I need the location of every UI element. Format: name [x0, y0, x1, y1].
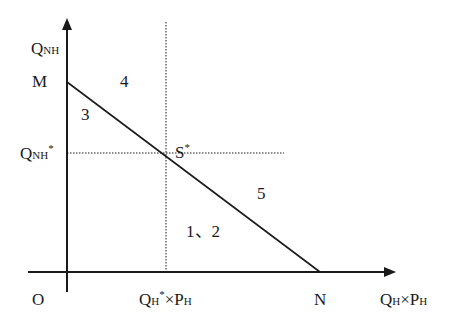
- x-tick-main1: Q: [139, 290, 151, 309]
- x-tick-main2: P: [174, 290, 183, 309]
- x-axis-label-main2: P: [410, 290, 419, 309]
- region-4-label: 4: [120, 73, 129, 90]
- region-1-2-label: 1、2: [186, 223, 220, 240]
- origin-label: O: [32, 291, 44, 308]
- line-mn: [67, 82, 320, 272]
- x-axis-label-sub2: H: [419, 295, 427, 307]
- y-axis-label-main: Q: [31, 39, 43, 58]
- region-3-label: 3: [81, 106, 90, 123]
- y-axis-arrow-icon: [62, 18, 72, 30]
- x-axis-label: QH×PH: [380, 291, 427, 308]
- y-tick-sup: *: [48, 142, 54, 154]
- point-n-label: N: [314, 291, 326, 308]
- region-5-label: 5: [257, 185, 266, 202]
- x-axis-times: ×: [400, 290, 410, 309]
- point-s-star-label: S*: [175, 144, 190, 161]
- y-axis-label: QNH: [31, 40, 59, 57]
- x-tick-times: ×: [165, 290, 175, 309]
- y-axis-label-sub: NH: [43, 44, 59, 56]
- y-tick-main: Q: [20, 144, 32, 163]
- y-tick-label: QNH*: [20, 145, 54, 162]
- x-axis-arrow-icon: [384, 267, 396, 277]
- diagram-canvas: [0, 0, 463, 326]
- point-s-sup: *: [184, 141, 190, 153]
- y-tick-sub: NH: [32, 149, 48, 161]
- x-tick-sub2: H: [184, 295, 192, 307]
- x-axis-label-main1: Q: [380, 290, 392, 309]
- point-m-label: M: [32, 73, 47, 90]
- x-tick-label: QH*×PH: [139, 291, 192, 308]
